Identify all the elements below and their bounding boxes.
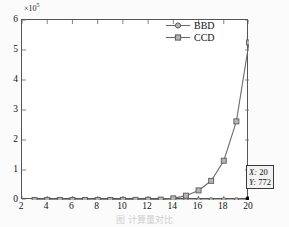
y-axis-tick-label: 4	[2, 74, 18, 84]
y-axis-tick-label: 1	[2, 164, 18, 174]
x-axis-tick-labels: 2468101214161820	[0, 200, 289, 214]
data-tip-x-row: X: 20	[249, 167, 271, 177]
plot-area	[21, 19, 248, 199]
data-tip-x-key: X:	[249, 167, 257, 177]
data-tip-y-key: Y:	[249, 177, 256, 187]
x-axis-tick-label: 18	[213, 200, 233, 212]
figure-caption: 图 计算量对比	[0, 214, 289, 227]
x-axis-tick-label: 12	[137, 200, 157, 212]
legend-marker-square-icon	[165, 32, 191, 43]
x-axis-tick-label: 20	[238, 200, 258, 212]
legend-label-bbd: BBD	[191, 20, 215, 31]
data-tip-box[interactable]: X: 20 Y: 772	[246, 165, 274, 189]
legend-label-ccd: CCD	[191, 32, 215, 43]
data-tip-y-row: Y: 772	[249, 177, 271, 187]
data-tip-x-value: 20	[259, 167, 268, 177]
legend: BBD CCD	[165, 20, 231, 43]
plot-canvas	[22, 20, 249, 200]
y-axis-multiplier-label: ×105	[24, 0, 40, 14]
x-axis-tick-label: 16	[188, 200, 208, 212]
y-axis-tick-labels: 6543210	[0, 0, 18, 227]
y-axis-tick-label: 2	[2, 134, 18, 144]
x-axis-tick-label: 8	[87, 200, 107, 212]
y-axis-multiplier-exponent: 5	[37, 2, 40, 8]
x-axis-tick-label: 6	[61, 200, 81, 212]
y-axis-tick-label: 6	[2, 14, 18, 24]
data-tip-y-value: 772	[258, 177, 271, 187]
x-axis-tick-label: 10	[112, 200, 132, 212]
y-axis-tick-label: 3	[2, 104, 18, 114]
y-axis-tick-label: 5	[2, 44, 18, 54]
legend-marker-circle-icon	[165, 20, 191, 31]
y-axis-multiplier-base: ×10	[24, 4, 37, 13]
x-axis-tick-label: 4	[36, 200, 56, 212]
legend-item-bbd[interactable]: BBD	[165, 20, 231, 31]
x-axis-tick-label: 14	[162, 200, 182, 212]
legend-item-ccd[interactable]: CCD	[165, 32, 231, 43]
chart-figure: ×105 6543210 2468101214161820 BBD CCD X:…	[0, 0, 289, 227]
x-axis-tick-label: 2	[11, 200, 31, 212]
series-ccd	[32, 40, 249, 200]
